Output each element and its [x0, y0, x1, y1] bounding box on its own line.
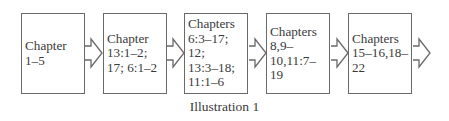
flow-box-5: Chapters 15–16,18– 22 — [348, 13, 412, 94]
flow-box-1: Chapter 1–5 — [21, 13, 85, 94]
flow-box-text: Chapter 1–5 — [22, 39, 67, 68]
arrow-right-icon — [331, 39, 348, 67]
flow-box-text: Chapters 6:3–17; 12; 13:3–18; 11:1–6 — [185, 17, 247, 90]
flow-diagram: Chapter 1–5 Chapter 13:1–2; 17; 6:1–2 Ch… — [0, 0, 449, 121]
flow-box-text: Chapters 8,9– 10,11:7– 19 — [267, 25, 317, 83]
flow-box-4: Chapters 8,9– 10,11:7– 19 — [266, 13, 330, 94]
flow-box-2: Chapter 13:1–2; 17; 6:1–2 — [103, 13, 167, 94]
figure-caption: Illustration 1 — [0, 99, 449, 115]
flow-box-text: Chapters 15–16,18– 22 — [349, 32, 408, 76]
flow-box-3: Chapters 6:3–17; 12; 13:3–18; 11:1–6 — [184, 13, 248, 94]
arrow-right-icon — [85, 39, 102, 67]
arrow-right-icon — [249, 39, 266, 67]
flow-box-text: Chapter 13:1–2; 17; 6:1–2 — [104, 32, 157, 76]
arrow-right-icon — [413, 39, 430, 67]
arrow-right-icon — [167, 39, 184, 67]
